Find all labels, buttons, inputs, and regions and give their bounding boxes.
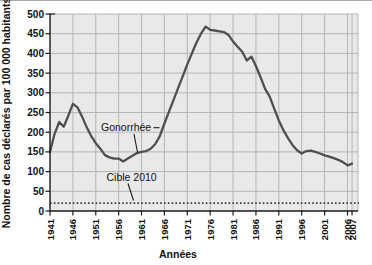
y-tick-label: 400 <box>27 48 44 59</box>
series-label-gonorrhee: Gonorrhée <box>101 121 151 133</box>
x-tick-label: 1966 <box>159 219 170 240</box>
y-tick-label: 450 <box>27 28 44 39</box>
x-tick-label: 2001 <box>319 218 330 240</box>
y-tick-label: 150 <box>27 146 44 157</box>
x-tick-label: 1956 <box>113 219 124 240</box>
x-tick-label: 1961 <box>136 218 147 240</box>
x-tick-label: 2007 <box>347 219 358 240</box>
y-tick-label: 500 <box>27 9 44 20</box>
x-axis-title: Années <box>159 248 197 260</box>
x-tick-label: 1951 <box>90 218 101 240</box>
y-tick-label: 100 <box>27 166 44 177</box>
chart-figure: 0501001502002503003504004505001941194619… <box>0 0 372 265</box>
y-tick-label: 250 <box>27 107 44 118</box>
y-tick-label: 300 <box>27 87 44 98</box>
y-tick-label: 350 <box>27 68 44 79</box>
y-tick-label: 0 <box>38 206 44 217</box>
x-tick-label: 1971 <box>182 218 193 240</box>
x-tick-label: 1941 <box>45 218 56 240</box>
x-tick-label: 1986 <box>250 219 261 240</box>
x-tick-label: 1946 <box>67 219 78 240</box>
x-tick-label: 1981 <box>228 218 239 240</box>
x-tick-label: 1996 <box>296 219 307 240</box>
x-tick-label: 1991 <box>273 218 284 240</box>
x-tick-label: 1976 <box>205 219 216 240</box>
y-tick-label: 200 <box>27 127 44 138</box>
y-tick-label: 50 <box>33 186 45 197</box>
y-axis-title: Nombre de cas déclarés par 100 000 habit… <box>0 0 12 228</box>
target-label-cible-2010: Cible 2010 <box>107 171 157 183</box>
gonorrhea-incidence-chart: 0501001502002503003504004505001941194619… <box>0 0 372 265</box>
